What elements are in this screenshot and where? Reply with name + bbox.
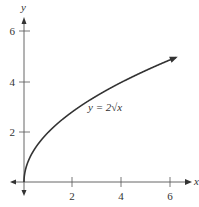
xtick-label-2: 2 [69,190,75,202]
x-axis-label: x [193,175,199,187]
y-axis-neg-arrow-icon [22,190,27,196]
x-axis-arrow-icon [185,179,192,185]
ytick-label-6: 6 [10,25,16,37]
ytick-label-2: 2 [10,126,16,138]
xtick-label-6: 6 [167,190,173,202]
curve-sqrt [24,58,176,183]
x-axis-neg-arrow-icon [10,180,16,185]
ytick-label-4: 4 [10,76,16,88]
y-axis-arrow-icon [22,17,27,24]
plot-canvas: 2 4 6 2 4 6 x y y = 2√x [0,0,199,207]
xtick-label-4: 4 [118,190,124,202]
y-axis-label: y [20,1,26,13]
curve-label: y = 2√x [87,101,122,113]
curve-arrow-icon [169,57,178,63]
